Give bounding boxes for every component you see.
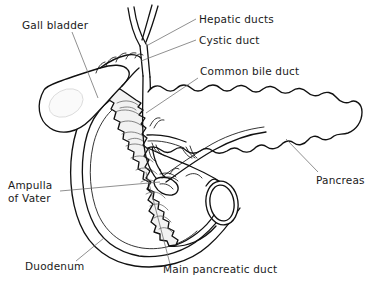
anatomy-figure: Gall bladder Hepatic ducts Cystic duct C… <box>0 0 367 285</box>
leader-hepatic-ducts <box>148 19 196 45</box>
label-main-pancreatic-duct: Main pancreatic duct <box>163 263 277 276</box>
anatomy-illustration <box>0 0 367 285</box>
label-ampulla-line-1: Ampulla <box>8 179 52 192</box>
label-ampulla-line-2: of Vater <box>8 192 52 205</box>
label-cystic-duct: Cystic duct <box>199 34 260 47</box>
label-common-bile-duct: Common bile duct <box>200 65 299 78</box>
label-pancreas: Pancreas <box>316 174 365 187</box>
hepatic-ducts-shape <box>128 5 158 77</box>
label-ampulla-of-vater: Ampulla of Vater <box>8 179 52 204</box>
label-gall-bladder: Gall bladder <box>22 19 88 32</box>
label-hepatic-ducts: Hepatic ducts <box>199 13 274 26</box>
leader-cystic-duct <box>141 40 196 61</box>
label-duodenum: Duodenum <box>25 260 84 273</box>
